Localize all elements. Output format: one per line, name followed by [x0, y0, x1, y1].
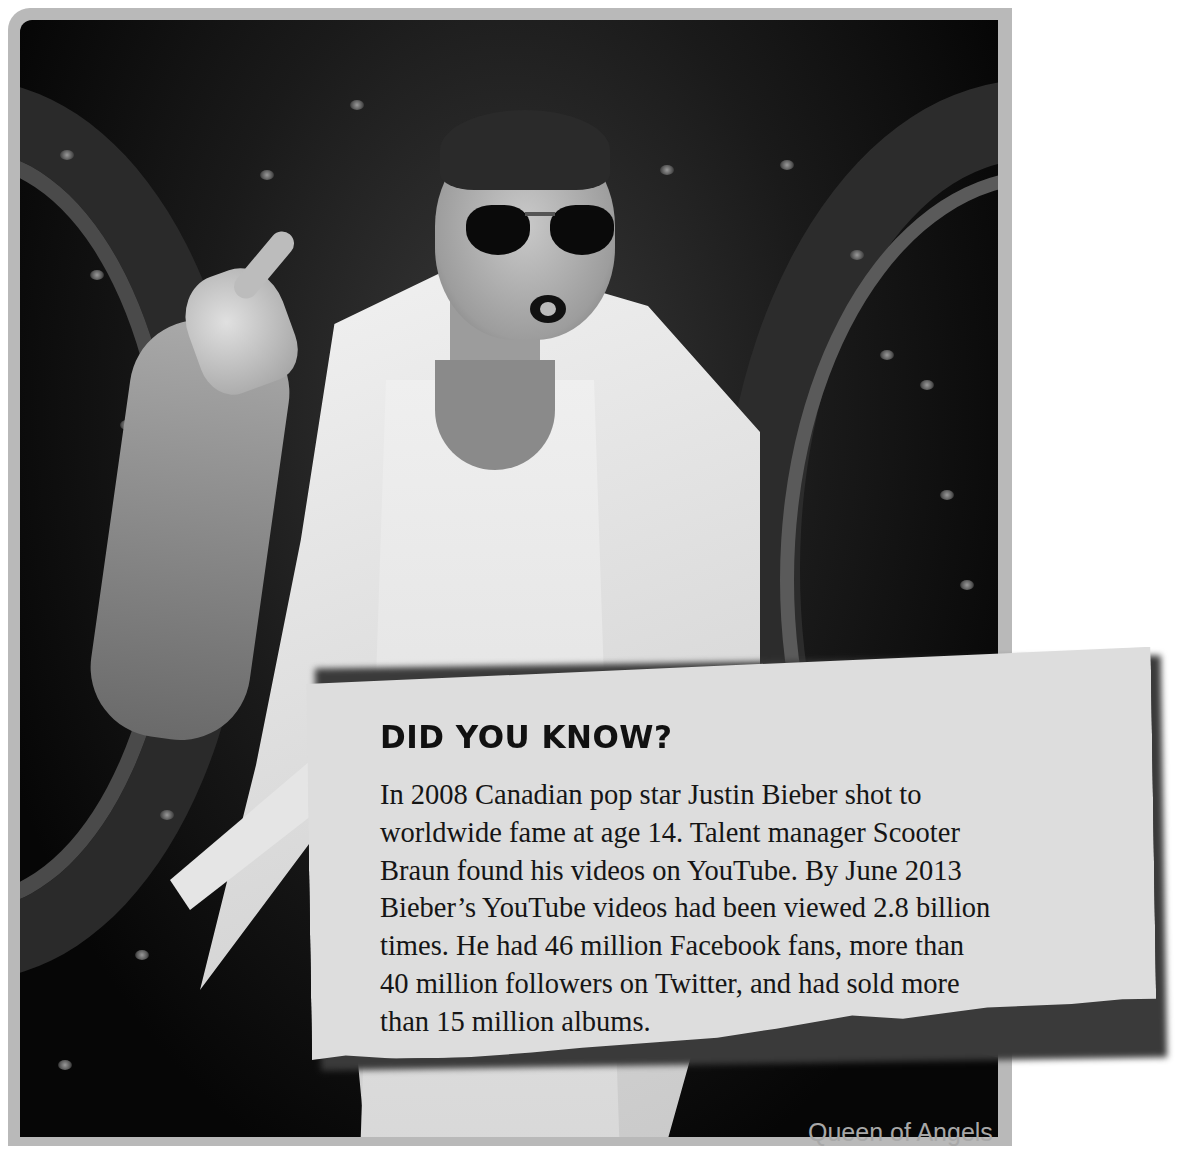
- rivet: [920, 380, 934, 390]
- headset-microphone-icon: [540, 302, 556, 316]
- sunglasses-right-lens: [550, 205, 614, 255]
- rivet: [135, 950, 149, 960]
- rivet: [60, 150, 74, 160]
- callout-line: In 2008 Canadian pop star Justin Bieber …: [380, 776, 1080, 814]
- rivet: [58, 1060, 72, 1070]
- rivet: [660, 165, 674, 175]
- rivet: [940, 490, 954, 500]
- callout-line: worldwide fame at age 14. Talent manager…: [380, 814, 1080, 852]
- rivet: [960, 580, 974, 590]
- rivet: [780, 160, 794, 170]
- rivet: [880, 350, 894, 360]
- callout-body: In 2008 Canadian pop star Justin Bieber …: [380, 776, 1080, 1041]
- callout-line: Braun found his videos on YouTube. By Ju…: [380, 852, 1080, 890]
- rivet: [850, 250, 864, 260]
- callout-title: DID YOU KNOW?: [380, 717, 672, 755]
- sunglasses-left-lens: [466, 205, 530, 255]
- photo-caption: Queen of Angels: [808, 1118, 993, 1147]
- callout-line: times. He had 46 million Facebook fans, …: [380, 927, 1080, 965]
- callout-line: Bieber’s YouTube videos had been viewed …: [380, 889, 1080, 927]
- sunglasses-bridge: [525, 212, 555, 216]
- rivet: [90, 270, 104, 280]
- rivet: [350, 100, 364, 110]
- rivet: [260, 170, 274, 180]
- callout-line: 40 million followers on Twitter, and had…: [380, 965, 1080, 1003]
- rivet: [160, 810, 174, 820]
- hair: [440, 110, 610, 190]
- callout-line: than 15 million albums.: [380, 1003, 1080, 1041]
